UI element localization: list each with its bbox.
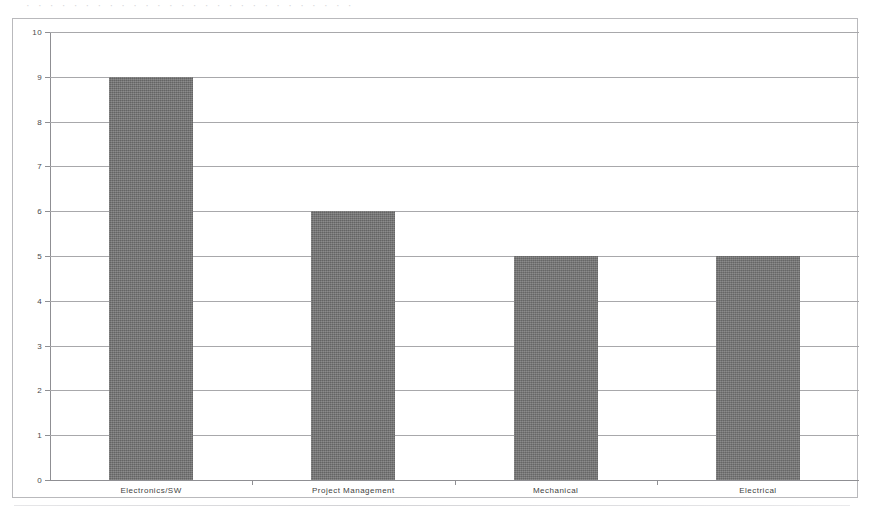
category-axis: Electronics/SWProject ManagementMechanic… [50,480,857,499]
category-label-3: Electrical [739,486,776,495]
value-tick-label-0: 0 [37,476,42,485]
value-tick-6 [45,211,50,212]
scan-edge-artifact [14,505,850,506]
clipped-caption-artifact: · · · · · · · · · · · · · · · · · · · · … [0,0,870,13]
value-tick-label-9: 9 [37,72,42,81]
gridline-10 [50,32,859,33]
plot-area: 012345678910 [50,32,859,480]
value-tick-5 [45,256,50,257]
value-tick-3 [45,346,50,347]
value-tick-label-5: 5 [37,252,42,261]
value-tick-label-2: 2 [37,386,42,395]
value-tick-label-6: 6 [37,207,42,216]
value-tick-10 [45,32,50,33]
category-label-1: Project Management [312,486,395,495]
bar-mechanical[interactable] [514,256,598,480]
value-tick-4 [45,301,50,302]
value-tick-label-1: 1 [37,431,42,440]
value-tick-1 [45,435,50,436]
category-tick-0 [252,480,253,485]
bar-electrical[interactable] [716,256,800,480]
category-tick-1 [455,480,456,485]
value-tick-label-7: 7 [37,162,42,171]
bar-project-management[interactable] [311,211,395,480]
value-tick-9 [45,77,50,78]
value-tick-8 [45,122,50,123]
chart-frame: 012345678910 Electronics/SWProject Manag… [12,18,858,498]
value-tick-label-4: 4 [37,296,42,305]
category-label-0: Electronics/SW [121,486,182,495]
category-label-2: Mechanical [533,486,578,495]
value-tick-label-3: 3 [37,341,42,350]
value-tick-label-8: 8 [37,117,42,126]
value-tick-label-10: 10 [32,28,42,37]
value-tick-7 [45,166,50,167]
category-tick-2 [657,480,658,485]
value-tick-2 [45,390,50,391]
bar-electronics-sw[interactable] [109,77,193,480]
